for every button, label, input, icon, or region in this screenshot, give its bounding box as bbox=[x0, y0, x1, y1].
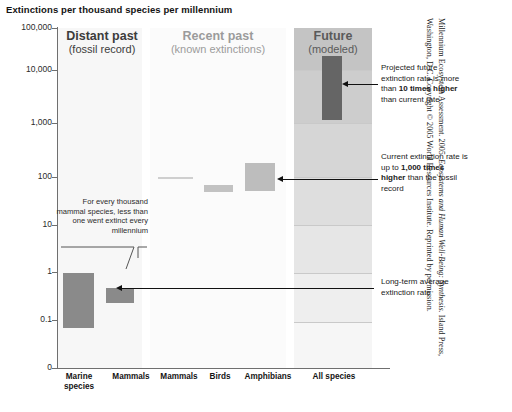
y-axis-ticks: 100,000 10,000 1,000 100 10 1 0.1 0 bbox=[0, 0, 52, 412]
arrow-head-longterm-icon bbox=[116, 285, 122, 291]
panel-heading-distant-past: Distant past (fossil record) bbox=[58, 30, 146, 56]
callout-bracket-icon bbox=[60, 246, 148, 270]
y-tick-label-10: 10 bbox=[2, 220, 52, 229]
arrow-head-future-icon bbox=[342, 81, 348, 87]
future-band-5 bbox=[294, 226, 372, 273]
y-tick-mark-0-1 bbox=[52, 320, 57, 321]
panel-background-recent-past bbox=[150, 28, 286, 368]
panel-heading-future: Future (modeled) bbox=[294, 30, 372, 56]
x-axis-line bbox=[57, 368, 390, 369]
bar-amphibians-recent bbox=[245, 163, 275, 191]
x-axis-label-mammals-fossil: Mammals bbox=[104, 372, 158, 382]
y-tick-mark-1 bbox=[52, 272, 57, 273]
x-axis-label-marine-species: Marine species bbox=[52, 372, 106, 391]
bar-mammals-recent bbox=[158, 177, 193, 179]
bar-all-species-future bbox=[322, 56, 342, 120]
bar-birds-recent bbox=[204, 185, 233, 192]
panel-heading-distant-past-line2: (fossil record) bbox=[58, 43, 146, 56]
arrow-line-future bbox=[348, 84, 378, 85]
x-axis-label-amphibians: Amphibians bbox=[238, 372, 298, 382]
panel-heading-future-line2: (modeled) bbox=[294, 43, 372, 56]
source-credit-italic: Ecosystems and Human Well-Being: Synthes… bbox=[437, 159, 446, 311]
y-tick-mark-100 bbox=[52, 177, 57, 178]
y-tick-mark-1000 bbox=[52, 123, 57, 124]
x-axis-label-birds: Birds bbox=[198, 372, 242, 382]
x-axis-label-marine-species-line2: species bbox=[52, 382, 106, 392]
future-band-7 bbox=[294, 323, 372, 368]
panel-heading-future-line1: Future bbox=[294, 30, 372, 43]
future-band-4 bbox=[294, 178, 372, 225]
y-tick-label-0-1: 0.1 bbox=[2, 315, 52, 324]
x-axis-label-all-species: All species bbox=[300, 372, 368, 382]
panel-heading-recent-past-line1: Recent past bbox=[150, 30, 286, 43]
arrow-head-current-icon bbox=[277, 176, 283, 182]
source-credit: Millennium Ecosystem Assessment. 2005. E… bbox=[389, 18, 447, 394]
chart-root: Extinctions per thousand species per mil… bbox=[0, 0, 512, 412]
y-tick-label-0: 0 bbox=[2, 363, 52, 372]
y-tick-label-1000: 1,000 bbox=[2, 118, 52, 127]
callout-fossil-note: For every thousand mammal species, less … bbox=[52, 197, 148, 235]
arrow-line-current bbox=[283, 179, 378, 180]
y-tick-label-10000: 10,000 bbox=[2, 65, 52, 74]
y-tick-label-100000: 100,000 bbox=[2, 23, 52, 32]
y-tick-label-1: 1 bbox=[2, 267, 52, 276]
arrow-line-longterm bbox=[122, 288, 374, 289]
future-band-6 bbox=[294, 274, 372, 322]
bar-marine-species-fossil bbox=[63, 273, 94, 328]
source-credit-part1: Millennium Ecosystem Assessment. 2005. bbox=[437, 18, 446, 159]
y-tick-mark-100000 bbox=[52, 28, 57, 29]
future-band-3 bbox=[294, 124, 372, 177]
panel-heading-recent-past: Recent past (known extinctions) bbox=[150, 30, 286, 56]
panel-heading-distant-past-line1: Distant past bbox=[58, 30, 146, 43]
y-tick-label-100: 100 bbox=[2, 172, 52, 181]
y-tick-mark-10000 bbox=[52, 70, 57, 71]
x-axis-label-marine-species-line1: Marine bbox=[52, 372, 106, 382]
y-tick-mark-0 bbox=[52, 368, 57, 369]
panel-heading-recent-past-line2: (known extinctions) bbox=[150, 43, 286, 56]
